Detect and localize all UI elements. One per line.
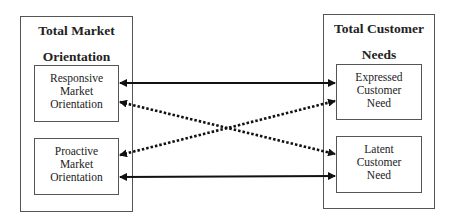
solid-arrow-bottom	[120, 176, 335, 177]
arrows-layer	[0, 0, 453, 223]
diagram: Total Market Orientation Responsive Mark…	[0, 0, 453, 223]
